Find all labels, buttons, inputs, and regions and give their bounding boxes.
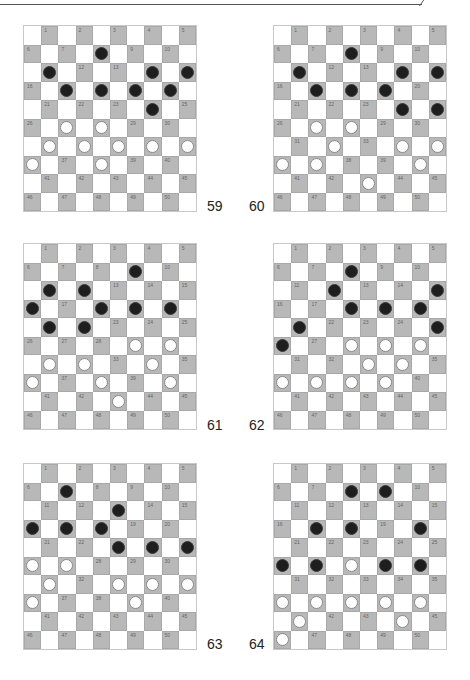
light-square bbox=[41, 156, 58, 175]
square-41: 41 bbox=[291, 174, 308, 193]
light-square bbox=[24, 464, 41, 483]
square-2: 2 bbox=[326, 244, 343, 263]
light-square bbox=[110, 483, 127, 502]
light-square bbox=[274, 174, 291, 193]
light-square bbox=[179, 557, 196, 576]
top-rule-tail bbox=[419, 0, 424, 6]
square-number: 49 bbox=[380, 195, 386, 200]
square-17: 17 bbox=[308, 300, 325, 319]
square-number: 13 bbox=[363, 65, 369, 70]
light-square bbox=[412, 538, 429, 557]
light-square bbox=[24, 612, 41, 631]
light-square bbox=[93, 318, 110, 337]
light-square bbox=[326, 557, 343, 576]
light-square bbox=[41, 594, 58, 613]
board-62: 1234567910111314161722232427313235404142… bbox=[273, 243, 447, 430]
square-number: 31 bbox=[294, 139, 300, 144]
square-number: 10 bbox=[415, 485, 421, 490]
square-2: 2 bbox=[326, 26, 343, 45]
black-piece-icon bbox=[146, 66, 159, 79]
square-36 bbox=[274, 374, 291, 393]
square-number: 49 bbox=[130, 195, 136, 200]
light-square bbox=[179, 300, 196, 319]
square-number: 35 bbox=[432, 577, 438, 582]
light-square bbox=[360, 631, 377, 650]
black-piece-icon bbox=[26, 522, 39, 535]
square-47: 47 bbox=[58, 411, 75, 430]
light-square bbox=[291, 45, 308, 64]
light-square bbox=[343, 318, 360, 337]
square-49: 49 bbox=[377, 193, 394, 212]
square-3: 3 bbox=[110, 244, 127, 263]
square-8: 8 bbox=[93, 483, 110, 502]
light-square bbox=[110, 631, 127, 650]
light-square bbox=[394, 300, 411, 319]
square-number: 14 bbox=[147, 283, 153, 288]
square-21: 21 bbox=[41, 538, 58, 557]
light-square bbox=[326, 45, 343, 64]
light-square bbox=[76, 82, 93, 101]
light-square bbox=[308, 392, 325, 411]
square-number: 26 bbox=[27, 339, 33, 344]
square-41: 41 bbox=[41, 612, 58, 631]
square-number: 49 bbox=[380, 633, 386, 638]
light-square bbox=[291, 631, 308, 650]
square-40 bbox=[412, 594, 429, 613]
square-number: 14 bbox=[397, 283, 403, 288]
square-number: 41 bbox=[294, 394, 300, 399]
light-square bbox=[179, 483, 196, 502]
black-piece-icon bbox=[431, 321, 444, 334]
light-square bbox=[394, 193, 411, 212]
square-1: 1 bbox=[41, 244, 58, 263]
square-3: 3 bbox=[360, 26, 377, 45]
light-square bbox=[308, 575, 325, 594]
light-square bbox=[308, 318, 325, 337]
square-3: 3 bbox=[360, 244, 377, 263]
light-square bbox=[58, 538, 75, 557]
white-piece-icon bbox=[78, 140, 91, 153]
black-piece-icon bbox=[60, 522, 73, 535]
square-number: 32 bbox=[329, 577, 335, 582]
light-square bbox=[58, 501, 75, 520]
light-square bbox=[394, 263, 411, 282]
light-square bbox=[24, 392, 41, 411]
square-48: 48 bbox=[93, 193, 110, 212]
light-square bbox=[41, 557, 58, 576]
square-10: 10 bbox=[412, 45, 429, 64]
light-square bbox=[24, 26, 41, 45]
square-16: 16 bbox=[274, 82, 291, 101]
square-number: 45 bbox=[432, 176, 438, 181]
square-number: 21 bbox=[294, 540, 300, 545]
square-10: 10 bbox=[412, 483, 429, 502]
light-square bbox=[291, 483, 308, 502]
square-30: 30 bbox=[162, 557, 179, 576]
light-square bbox=[308, 281, 325, 300]
light-square bbox=[377, 612, 394, 631]
light-square bbox=[93, 575, 110, 594]
square-number: 1 bbox=[44, 466, 47, 471]
square-number: 23 bbox=[363, 320, 369, 325]
light-square bbox=[360, 156, 377, 175]
square-number: 14 bbox=[397, 503, 403, 508]
square-number: 44 bbox=[147, 394, 153, 399]
square-26 bbox=[274, 557, 291, 576]
light-square bbox=[93, 244, 110, 263]
square-number: 10 bbox=[415, 265, 421, 270]
light-square bbox=[326, 520, 343, 539]
light-square bbox=[360, 193, 377, 212]
light-square bbox=[93, 538, 110, 557]
white-piece-icon bbox=[362, 358, 375, 371]
black-piece-icon bbox=[431, 103, 444, 116]
square-22: 22 bbox=[326, 538, 343, 557]
square-number: 24 bbox=[397, 540, 403, 545]
light-square bbox=[326, 193, 343, 212]
square-number: 8 bbox=[96, 265, 99, 270]
square-number: 3 bbox=[363, 466, 366, 471]
square-number: 40 bbox=[165, 596, 171, 601]
square-number: 49 bbox=[130, 413, 136, 418]
light-square bbox=[412, 281, 429, 300]
black-piece-icon bbox=[310, 559, 323, 572]
light-square bbox=[360, 337, 377, 356]
white-piece-icon bbox=[129, 596, 142, 609]
light-square bbox=[429, 520, 446, 539]
